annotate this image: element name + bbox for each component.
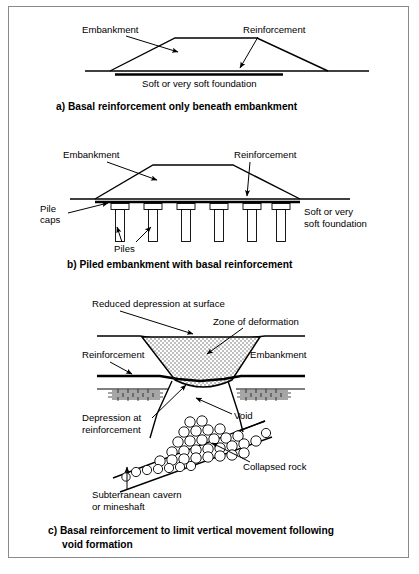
panel-c-label-depression-1: Depression at bbox=[82, 412, 142, 423]
panel-c-label-reinforcement: Reinforcement bbox=[82, 349, 145, 360]
panel-c-leader-reduced-depression bbox=[120, 311, 193, 334]
panel-c-label-cavern-1: Subterranean cavern bbox=[92, 489, 182, 500]
panel-b-embankment-outline bbox=[95, 165, 300, 199]
panel-c-label-embankment: Embankment bbox=[250, 349, 307, 360]
pile bbox=[272, 204, 290, 242]
panel-a-label-reinforcement: Reinforcement bbox=[243, 24, 306, 35]
panel-a-leader-reinforcement bbox=[240, 37, 258, 68]
panel-b-label-embankment: Embankment bbox=[63, 149, 120, 160]
panel-c-label-void: Void bbox=[234, 410, 253, 421]
pile bbox=[210, 204, 228, 242]
panel-c-label-zone-of-deformation: Zone of deformation bbox=[213, 316, 299, 327]
panel-c-caption-line1: c) Basal reinforcement to limit vertical… bbox=[48, 525, 334, 536]
figure-svg: Embankment Reinforcement Soft or very so… bbox=[0, 0, 419, 574]
panel-b-leader-reinforcement bbox=[247, 162, 250, 196]
panel-b-caption: b) Piled embankment with basal reinforce… bbox=[67, 259, 293, 270]
panel-b-label-foundation-1: Soft or very bbox=[304, 206, 353, 217]
panel-b-label-pile-caps-1: Pile bbox=[40, 203, 56, 214]
panel-a-label-foundation: Soft or very soft foundation bbox=[142, 78, 257, 89]
pile bbox=[243, 204, 261, 242]
panel-c-caption-line2: void formation bbox=[62, 539, 133, 550]
panel-c-leader-reinforcement bbox=[110, 362, 132, 374]
panel-b-label-reinforcement: Reinforcement bbox=[234, 149, 297, 160]
panel-c-brick-hatch-right bbox=[237, 389, 291, 401]
panel-c-leader-depression bbox=[152, 385, 186, 418]
panel-c-zone-of-deformation bbox=[142, 337, 260, 387]
panel-c-label-collapsed-rock: Collapsed rock bbox=[243, 461, 307, 472]
panel-c-brick-hatch-left bbox=[108, 389, 163, 401]
panel-b-label-piles: Piles bbox=[114, 243, 135, 254]
panel-b-label-foundation-2: soft foundation bbox=[304, 218, 367, 229]
panel-a-label-embankment: Embankment bbox=[82, 24, 139, 35]
panel-a-embankment-outline bbox=[110, 38, 328, 71]
figure-page: Embankment Reinforcement Soft or very so… bbox=[0, 0, 419, 574]
panel-b-piles bbox=[111, 204, 290, 242]
panel-c-label-reduced-depression: Reduced depression at surface bbox=[92, 298, 225, 309]
panel-b-label-pile-caps-2: caps bbox=[40, 214, 60, 225]
panel-a: Embankment Reinforcement Soft or very so… bbox=[56, 24, 369, 112]
panel-c-label-depression-2: reinforcement bbox=[82, 424, 141, 435]
panel-c-label-cavern-2: or mineshaft bbox=[92, 501, 145, 512]
panel-c-leader-void bbox=[196, 398, 232, 414]
panel-b: Embankment Reinforcement Pile caps Piles… bbox=[40, 149, 367, 270]
pile bbox=[144, 204, 162, 242]
panel-c: Reduced depression at surface Zone of de… bbox=[48, 298, 334, 550]
panel-a-caption: a) Basal reinforcement only beneath emba… bbox=[56, 101, 298, 112]
panel-b-leader-pile-caps bbox=[68, 203, 108, 213]
pile bbox=[177, 204, 195, 242]
